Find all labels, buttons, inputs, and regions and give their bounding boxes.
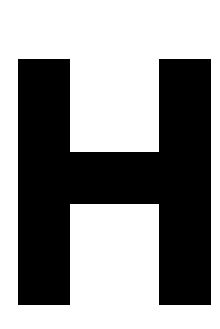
letter-h-glyph — [0, 0, 220, 329]
crossbar-stroke — [18, 152, 211, 204]
glyph-canvas: H — [0, 0, 220, 329]
